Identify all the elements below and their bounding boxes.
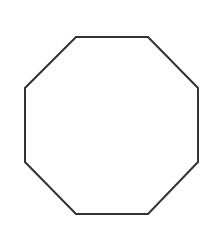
octagon-shape	[25, 37, 198, 214]
diagram-canvas	[0, 0, 209, 238]
